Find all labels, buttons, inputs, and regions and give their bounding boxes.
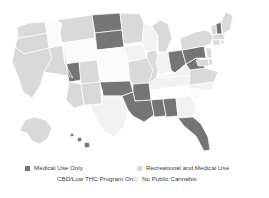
state-NJ[interactable] <box>206 48 212 58</box>
legend-label-medical-use-only: Medical Use Only <box>34 164 83 172</box>
legend-swatch-medical-use-only <box>25 166 30 171</box>
state-MN[interactable] <box>120 13 144 44</box>
state-CO[interactable] <box>79 60 100 84</box>
legend-swatch-no-public-cannabis <box>133 177 138 182</box>
states-layer <box>12 12 233 151</box>
state-RI[interactable] <box>221 40 224 44</box>
state-ME[interactable] <box>221 12 233 34</box>
legend-item-no-public-cannabis[interactable]: No Public Cannabis <box>133 175 197 183</box>
state-AK[interactable] <box>20 117 52 144</box>
state-MD[interactable] <box>196 59 209 66</box>
us-choropleth-map <box>0 0 269 160</box>
state-NM[interactable] <box>81 82 102 105</box>
legend-swatch-recreational-and-medical-use <box>137 166 142 171</box>
state-FL[interactable] <box>178 117 210 151</box>
map-legend: Medical Use Only Recreational and Medica… <box>0 162 269 198</box>
state-HI[interactable] <box>70 133 90 148</box>
state-GA[interactable] <box>176 96 196 118</box>
legend-item-medical-use-only[interactable]: Medical Use Only <box>25 164 83 172</box>
cannabis-legality-map-figure: Medical Use Only Recreational and Medica… <box>0 0 269 198</box>
state-KS[interactable] <box>99 62 130 82</box>
legend-label-cbd-low-thc-program-only: CBD/Low THC Program Only <box>57 175 138 183</box>
state-AR[interactable] <box>133 83 151 101</box>
state-MA[interactable] <box>212 34 225 40</box>
legend-item-cbd-low-thc-program-only[interactable]: CBD/Low THC Program Only <box>48 175 138 183</box>
state-SD[interactable] <box>95 30 124 50</box>
state-WY[interactable] <box>62 38 97 64</box>
state-NY[interactable] <box>180 30 214 50</box>
map-container <box>0 0 269 160</box>
legend-label-no-public-cannabis: No Public Cannabis <box>142 175 197 183</box>
state-CT[interactable] <box>213 40 220 45</box>
state-ND[interactable] <box>92 13 122 33</box>
legend-label-recreational-and-medical-use: Recreational and Medical Use <box>146 164 229 172</box>
legend-item-recreational-and-medical-use[interactable]: Recreational and Medical Use <box>137 164 229 172</box>
